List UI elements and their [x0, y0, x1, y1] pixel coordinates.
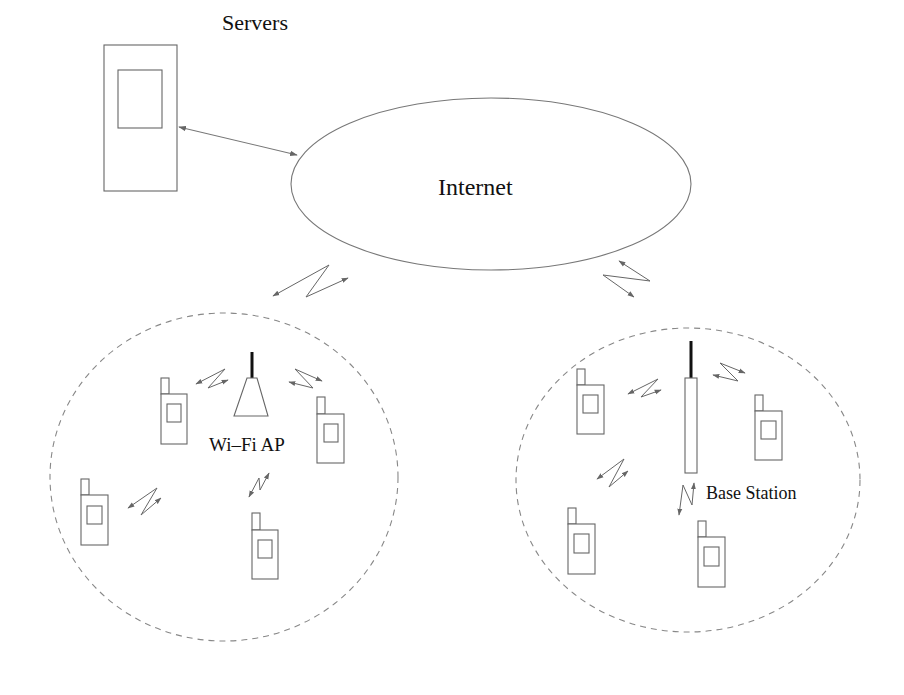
mobile-phone-icon	[317, 397, 344, 463]
mobile-phone-icon	[81, 479, 108, 545]
servers-label: Servers	[222, 12, 288, 34]
wifi-access-point-icon	[234, 352, 268, 416]
base-station-tower-icon	[685, 341, 697, 473]
cellular-coverage-zone	[516, 328, 860, 632]
wireless-bolt-icon	[249, 473, 269, 497]
mobile-phone-icon	[252, 513, 278, 579]
wireless-link-wifi-zone-icon	[273, 265, 348, 297]
mobile-phone-icon	[577, 369, 604, 434]
network-diagram	[0, 0, 904, 695]
server-internet-link	[179, 127, 297, 155]
wireless-link-cellular-zone-icon	[603, 261, 650, 297]
base-station-label: Base Station	[706, 484, 797, 502]
wireless-bolt-icon	[128, 488, 161, 515]
wifi-ap-label: Wi–Fi AP	[209, 435, 285, 454]
internet-label: Internet	[438, 175, 513, 199]
wireless-bolt-icon	[597, 459, 628, 487]
server-icon	[104, 45, 177, 191]
mobile-phone-icon	[161, 378, 187, 444]
mobile-phone-icon	[568, 508, 595, 574]
mobile-phone-icon	[755, 395, 782, 460]
wireless-bolt-icon	[289, 369, 322, 388]
wireless-bolt-icon	[713, 363, 745, 381]
wifi-coverage-zone	[50, 313, 398, 641]
wireless-bolt-icon	[628, 379, 661, 397]
mobile-phone-icon	[698, 521, 725, 587]
wireless-bolt-icon	[196, 369, 228, 388]
wireless-bolt-icon	[679, 483, 694, 515]
